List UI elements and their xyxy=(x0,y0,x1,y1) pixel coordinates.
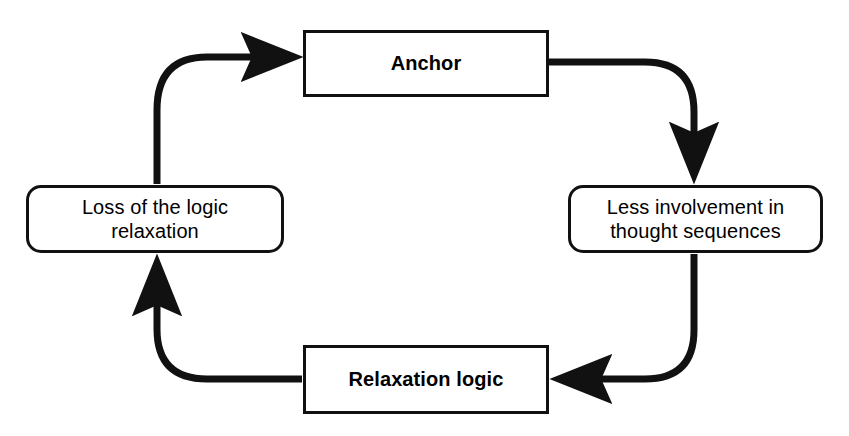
edge-loss-of-logic-to-anchor xyxy=(157,57,291,184)
cycle-diagram: Anchor Less involvement in thought seque… xyxy=(0,0,849,436)
node-relaxation-logic: Relaxation logic xyxy=(303,345,549,414)
node-less-involvement: Less involvement in thought sequences xyxy=(568,185,823,253)
node-less-involvement-label: Less involvement in thought sequences xyxy=(599,195,793,244)
node-relaxation-logic-label: Relaxation logic xyxy=(341,367,512,391)
node-loss-of-logic: Loss of the logic relaxation xyxy=(26,185,284,253)
node-anchor: Anchor xyxy=(303,30,549,97)
edge-anchor-to-less-involvement xyxy=(549,62,694,172)
node-loss-of-logic-label: Loss of the logic relaxation xyxy=(74,195,236,244)
edge-relaxation-logic-to-loss-of-logic xyxy=(157,266,302,379)
edge-less-involvement-to-relaxation-logic xyxy=(562,254,694,379)
node-anchor-label: Anchor xyxy=(383,51,470,75)
